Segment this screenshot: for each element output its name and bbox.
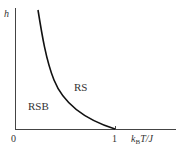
y-axis-label: h <box>4 8 9 19</box>
origin-label: 0 <box>11 133 16 144</box>
region-label-rsb: RSB <box>28 100 49 112</box>
x-axis-label: kBT/J <box>131 133 153 146</box>
phase-diagram: h 0 1 RS RSB kBT/J <box>0 0 180 146</box>
x-tick-label-1: 1 <box>112 133 117 144</box>
at-line-curve <box>38 10 115 129</box>
region-label-rs: RS <box>74 81 87 93</box>
